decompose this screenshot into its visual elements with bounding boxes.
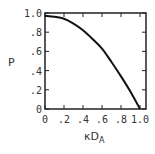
x-axis-label: κDA — [84, 130, 105, 145]
x-tick-labels: 0.2.4.6.81.0 — [42, 114, 149, 125]
x-axis-label-main: κD — [84, 130, 99, 143]
x-tick-label: .6 — [96, 114, 108, 125]
data-curve — [45, 16, 140, 109]
x-tick-label: .4 — [77, 114, 89, 125]
y-tick-label: 1.0 — [24, 8, 42, 19]
y-axis-label: P — [8, 56, 15, 69]
x-tick-label: 1.0 — [131, 114, 149, 125]
x-tick-label: .8 — [115, 114, 127, 125]
x-axis-label-subscript: A — [99, 136, 105, 145]
y-tick-label: .4 — [30, 66, 42, 77]
y-tick-label: .6 — [30, 46, 42, 57]
axis-ticks — [45, 13, 146, 109]
y-tick-label: .2 — [30, 85, 42, 96]
x-tick-label: 0 — [42, 114, 48, 125]
y-tick-label: .8 — [30, 27, 42, 38]
plot-border — [45, 13, 146, 109]
x-tick-label: .2 — [58, 114, 70, 125]
chart: 0.2.4.6.81.0 0.2.4.6.81.0 P κDA — [0, 0, 155, 154]
y-tick-labels: 0.2.4.6.81.0 — [24, 8, 42, 115]
plot-frame — [45, 13, 146, 109]
